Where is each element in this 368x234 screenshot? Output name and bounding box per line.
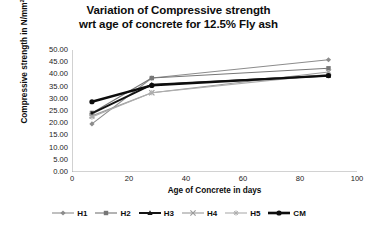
x-axis-tick-label: 0 — [60, 174, 84, 183]
data-point-marker — [61, 210, 66, 215]
legend-swatch-h4 — [181, 208, 205, 218]
legend-swatch-h2 — [94, 208, 118, 218]
data-point-marker — [149, 83, 154, 88]
series-h2 — [90, 66, 331, 115]
legend-swatch-h5 — [224, 208, 248, 218]
chart-title-line1: Variation of Compressive strength — [87, 4, 271, 16]
series-line — [92, 76, 329, 102]
y-axis-tick-label: 20.00 — [28, 119, 68, 127]
series-cm — [89, 73, 331, 104]
y-axis-tick-label: 30.00 — [28, 95, 68, 103]
y-axis-tick-label: 45.00 — [28, 58, 68, 66]
series-h5 — [89, 72, 331, 120]
legend-item-h1[interactable]: H1 — [51, 208, 87, 218]
legend-item-h4[interactable]: H4 — [181, 208, 217, 218]
data-point-marker — [277, 210, 282, 215]
legend-swatch-h1 — [51, 208, 75, 218]
x-axis-tick-label: 40 — [174, 174, 198, 183]
y-axis-tick-label: 5.00 — [28, 156, 68, 164]
axes-layer — [72, 50, 357, 172]
data-point-marker — [89, 115, 94, 120]
data-point-marker — [234, 210, 239, 215]
x-axis-tick-label: 80 — [288, 174, 312, 183]
legend-label: CM — [293, 209, 305, 218]
y-axis-tick-label: 25.00 — [28, 107, 68, 115]
y-axis-tick-label: 10.00 — [28, 144, 68, 152]
y-axis-tick-label: 40.00 — [28, 70, 68, 78]
legend-item-h5[interactable]: H5 — [224, 208, 260, 218]
x-axis-tick-label: 100 — [345, 174, 368, 183]
series-layer — [89, 57, 331, 126]
legend-item-cm[interactable]: CM — [267, 208, 305, 218]
y-axis-tick-label: 15.00 — [28, 131, 68, 139]
legend-label: H2 — [120, 209, 130, 218]
legend-label: H3 — [164, 209, 174, 218]
chart-legend: H1H2H3H4H5CM — [0, 208, 357, 218]
y-axis-ticks: 0.005.0010.0015.0020.0025.0030.0035.0040… — [24, 0, 68, 234]
legend-swatch-h3 — [138, 208, 162, 218]
legend-label: H4 — [207, 209, 217, 218]
y-axis-tick-label: 50.00 — [28, 46, 68, 54]
y-axis-tick-label: 35.00 — [28, 83, 68, 91]
x-axis-tick-label: 20 — [117, 174, 141, 183]
data-point-marker — [326, 57, 331, 62]
plot-area — [72, 50, 357, 172]
data-point-marker — [104, 211, 108, 215]
x-axis-label: Age of Concrete in days — [72, 186, 357, 195]
data-point-marker — [149, 90, 154, 95]
legend-label: H5 — [250, 209, 260, 218]
data-point-marker — [89, 99, 94, 104]
legend-item-h3[interactable]: H3 — [138, 208, 174, 218]
data-point-marker — [150, 76, 154, 80]
legend-swatch-cm — [267, 208, 291, 218]
data-point-marker — [326, 73, 331, 78]
x-axis-tick-label: 60 — [231, 174, 255, 183]
legend-item-h2[interactable]: H2 — [94, 208, 130, 218]
series-h3 — [89, 73, 331, 116]
legend-label: H1 — [77, 209, 87, 218]
plot-svg — [72, 50, 357, 172]
series-line — [92, 68, 329, 113]
